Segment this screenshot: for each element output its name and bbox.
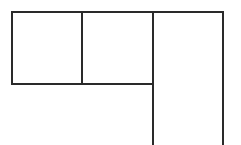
diagram-canvas bbox=[0, 0, 241, 145]
top-left-cell bbox=[13, 13, 81, 83]
bottom-edge-line bbox=[11, 83, 154, 85]
right-tall-cell bbox=[154, 13, 222, 145]
right-edge-line bbox=[222, 11, 224, 145]
top-middle-cell bbox=[83, 13, 152, 83]
